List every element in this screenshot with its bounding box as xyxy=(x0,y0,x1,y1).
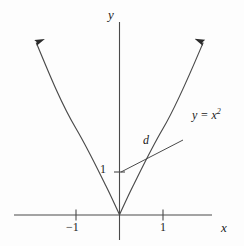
y-axis-label: y xyxy=(108,8,114,21)
curve-equation-exponent: 2 xyxy=(217,107,221,116)
distance-segment xyxy=(121,140,183,172)
curve-equation-base: y = x xyxy=(192,108,217,122)
graph-canvas xyxy=(0,0,244,246)
x-tick-label-one: 1 xyxy=(160,221,166,233)
math-figure-parabola-distance: y x y = x2 d 1 1 −1 xyxy=(0,0,244,246)
x-axis-label: x xyxy=(221,221,227,234)
y-tick-label-one: 1 xyxy=(100,163,106,175)
distance-label: d xyxy=(143,134,149,146)
x-tick-label-neg-one: −1 xyxy=(66,221,79,233)
curve-equation-label: y = x2 xyxy=(192,108,221,121)
